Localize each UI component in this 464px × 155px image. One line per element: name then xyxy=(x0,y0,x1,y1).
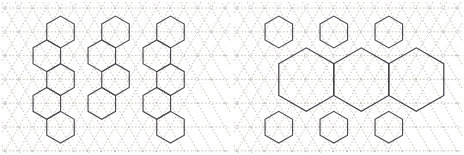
lattice-diagonal-right xyxy=(357,2,444,153)
lattice-node xyxy=(346,7,348,9)
lattice-node xyxy=(442,31,444,33)
lattice-node xyxy=(456,7,458,9)
lattice-diagonal-right xyxy=(98,2,185,153)
lattice-node xyxy=(210,79,212,81)
lattice-diagonal-right xyxy=(247,2,334,153)
lattice-diagonal-right xyxy=(167,2,230,112)
lattice-diagonal-right xyxy=(15,2,102,153)
lattice-node xyxy=(305,126,307,128)
lattice-diagonal-right xyxy=(2,98,34,153)
lattice-node xyxy=(415,126,417,128)
lattice-node xyxy=(114,150,116,152)
lattice-node xyxy=(197,55,199,57)
lattice-node xyxy=(456,150,458,152)
lattice-node xyxy=(305,31,307,33)
lattice-node xyxy=(250,31,252,33)
lattice-diagonal-right xyxy=(2,146,6,153)
lattice-diagonal-right xyxy=(222,2,230,17)
lattice-node xyxy=(114,7,116,9)
lattice-node xyxy=(442,126,444,128)
lattice-diagonal-right xyxy=(2,74,48,153)
lattice-diagonal-right xyxy=(330,2,417,153)
lattice-node xyxy=(236,150,238,152)
lattice-node xyxy=(142,150,144,152)
lattice-diagonal-right xyxy=(70,2,157,153)
lattice-node xyxy=(224,7,226,9)
lattice-node xyxy=(32,7,34,9)
right-panel-canvas xyxy=(232,0,464,155)
lattice-node xyxy=(250,79,252,81)
lattice-diagonal-right xyxy=(2,3,89,153)
lattice-diagonal-left xyxy=(17,2,104,153)
lattice-node xyxy=(360,79,362,81)
lattice-diagonal-left xyxy=(72,2,159,153)
lattice-node xyxy=(264,7,266,9)
lattice-node xyxy=(4,7,6,9)
lattice-node xyxy=(456,102,458,104)
lattice-node xyxy=(18,79,20,81)
lattice-node xyxy=(429,7,431,9)
lattice-node xyxy=(387,31,389,33)
hexagon-small xyxy=(47,64,75,96)
lattice-node xyxy=(197,102,199,104)
lattice-diagonal-left xyxy=(86,2,173,153)
lattice-diagonal-left xyxy=(4,2,91,153)
lattice-diagonal-right xyxy=(112,2,199,153)
lattice-diagonal-right xyxy=(57,2,144,153)
lattice-diagonal-left xyxy=(45,2,132,153)
lattice-node xyxy=(210,126,212,128)
lattice-diagonal-right xyxy=(261,2,348,153)
lattice-node xyxy=(415,31,417,33)
lattice-node xyxy=(291,150,293,152)
lattice-diagonal-right xyxy=(289,2,376,153)
lattice-diagonal-right xyxy=(275,2,362,153)
lattice-diagonal-right xyxy=(234,74,280,153)
hexagon-small xyxy=(47,16,75,48)
lattice-diagonal-right xyxy=(180,2,230,88)
lattice-node xyxy=(250,126,252,128)
lattice-node xyxy=(374,7,376,9)
lattice-node xyxy=(224,150,226,152)
lattice-node xyxy=(319,7,321,9)
lattice-diagonal-right xyxy=(2,122,20,153)
figure-container xyxy=(0,0,464,155)
lattice-node xyxy=(277,126,279,128)
lattice-diagonal-right xyxy=(399,2,462,112)
lattice-node xyxy=(32,150,34,152)
lattice-node xyxy=(128,126,130,128)
left-panel-canvas xyxy=(0,0,232,155)
lattice-node xyxy=(332,126,334,128)
lattice-diagonal-right xyxy=(234,98,266,153)
lattice-node xyxy=(264,55,266,57)
lattice-diagonal-right xyxy=(84,2,171,153)
lattice-diagonal-left xyxy=(100,2,187,153)
lattice-node xyxy=(236,102,238,104)
lattice-diagonal-left xyxy=(31,2,118,153)
lattice-diagonal-left xyxy=(2,2,50,85)
lattice-node xyxy=(360,31,362,33)
lattice-node xyxy=(264,102,266,104)
lattice-node xyxy=(169,7,171,9)
lattice-node xyxy=(18,126,20,128)
lattice-diagonal-right xyxy=(139,2,226,153)
lattice-node xyxy=(4,150,6,152)
lattice-node xyxy=(87,150,89,152)
lattice-node xyxy=(87,7,89,9)
lattice-node xyxy=(387,126,389,128)
lattice-diagonal-left xyxy=(373,2,460,153)
lattice-diagonal-right xyxy=(316,2,403,153)
lattice-node xyxy=(236,7,238,9)
lattice-node xyxy=(415,79,417,81)
lattice-diagonal-right xyxy=(234,146,238,153)
lattice-diagonal-right xyxy=(454,2,462,17)
lattice-node xyxy=(264,150,266,152)
lattice-diagonal-left xyxy=(127,2,214,153)
lattice-diagonal-right xyxy=(29,2,116,153)
lattice-diagonal-right xyxy=(234,122,252,153)
lattice-node xyxy=(169,150,171,152)
lattice-diagonal-left xyxy=(234,2,309,132)
lattice-node xyxy=(236,55,238,57)
lattice-diagonal-left xyxy=(155,23,230,153)
lattice-diagonal-right xyxy=(125,2,212,153)
lattice-diagonal-right xyxy=(43,2,130,153)
